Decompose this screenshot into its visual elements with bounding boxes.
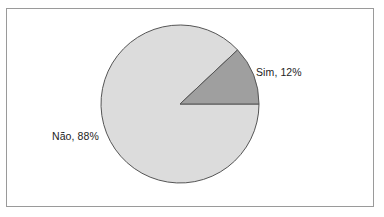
pie-slices-group [101, 25, 259, 183]
pie-label-sim: Sim, 12% [256, 66, 302, 78]
pie-chart-graphic [0, 0, 384, 217]
pie-label-nao: Não, 88% [52, 130, 99, 142]
pie-chart-figure: Sim, 12% Não, 88% [0, 0, 384, 217]
